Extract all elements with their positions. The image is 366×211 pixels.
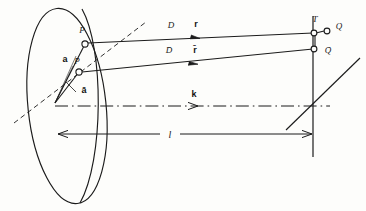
ray-D-arrowhead (190, 35, 200, 39)
label-vector-a: a (62, 54, 68, 64)
label-Pbar: P̄ (73, 56, 80, 66)
label-Qbar: Q̄ (325, 45, 332, 55)
label-vector-r: r (194, 19, 198, 29)
point-Qbar-marker (311, 46, 317, 52)
label-vector-abar: ā (81, 85, 87, 95)
ray-D-line (88, 33, 313, 43)
point-Pbar-marker (76, 69, 82, 75)
observation-plane-group (286, 16, 360, 157)
screen-oblique-line (286, 58, 360, 130)
point-Q-marker (324, 28, 330, 34)
optical-axis-group (55, 102, 330, 109)
label-screen-T: T (312, 14, 318, 24)
diffraction-geometry-figure: P P̄ a ā D r D̄ r̄ k T Q Q̄ l (0, 0, 366, 211)
ray-upper-group (88, 33, 313, 43)
label-ray-Dbar: D̄ (165, 45, 173, 55)
label-vector-k: k (191, 89, 197, 99)
label-ray-D: D (167, 20, 175, 30)
ray-Dbar-line (82, 49, 313, 72)
label-Q: Q (336, 21, 343, 31)
point-P-marker (82, 41, 88, 47)
dimension-l-group (58, 130, 312, 137)
vertex-construction-stroke-2 (55, 66, 73, 103)
label-dimension-l: l (169, 129, 172, 140)
ray-Dbar-arrowhead (188, 61, 198, 65)
label-vector-rbar: r̄ (192, 45, 197, 55)
label-P: P (78, 25, 85, 35)
ray-lower-group (82, 49, 313, 72)
point-Q-on-axis-marker (311, 30, 317, 36)
